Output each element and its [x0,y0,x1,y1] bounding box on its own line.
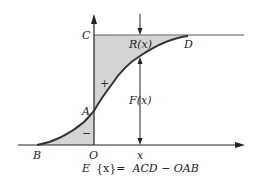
x-axis-arrow-icon [235,142,245,148]
f-arrow-down-icon [138,138,143,145]
y-axis-arrow-icon [91,14,97,24]
label-d: D [183,38,193,51]
expected-value-diagram: C A B O x D R(x) F(x) + − E {x}= ACD − O… [0,0,257,178]
label-f-of-x: F(x) [128,94,151,107]
negative-area-sign: − [82,127,91,140]
formula-brace: {x}= [96,162,125,175]
formula-rhs: ACD − OAB [131,162,198,175]
positive-area-sign: + [100,77,109,90]
r-arrow-down-icon [138,28,143,35]
formula-e: E [81,162,90,175]
label-c: C [82,29,91,42]
label-a: A [81,105,90,118]
label-x: x [137,149,144,162]
label-r-of-x: R(x) [128,38,152,51]
label-b: B [32,149,41,162]
